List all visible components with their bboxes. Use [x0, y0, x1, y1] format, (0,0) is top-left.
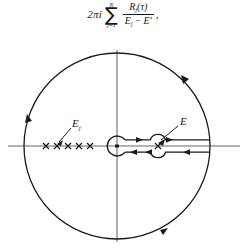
pole-label: Ej	[71, 117, 81, 132]
complex-plane-contour-diagram: Ej E	[0, 0, 246, 248]
branch-point-label: E	[179, 115, 187, 127]
arrowhead-lower-cut-2-icon	[145, 149, 152, 155]
arrowhead-upper-cut-2-icon	[166, 137, 173, 143]
lower-branch-cut-path	[125, 152, 210, 158]
origin-point-mark	[115, 145, 119, 148]
arrowhead-upper-cut-1-icon	[136, 137, 143, 143]
pole-label-leader-line	[59, 128, 71, 142]
arrowhead-lower-cut-3-icon	[183, 149, 190, 155]
pole-label-subscript: j	[78, 124, 81, 132]
arrowhead-outer-left-icon	[25, 114, 32, 123]
arrowhead-lower-cut-1-icon	[130, 149, 137, 155]
arrowhead-outer-lower-right-icon	[160, 228, 168, 235]
branch-label-leader-line	[161, 126, 178, 140]
